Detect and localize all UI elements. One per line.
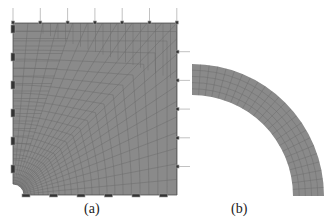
panel-b-label: (b) (231, 201, 247, 217)
panel-a-label: (a) (84, 201, 100, 217)
figure-canvas (0, 0, 329, 223)
quarter-annulus-mesh (192, 64, 324, 196)
square-plate-mesh (13, 23, 177, 195)
